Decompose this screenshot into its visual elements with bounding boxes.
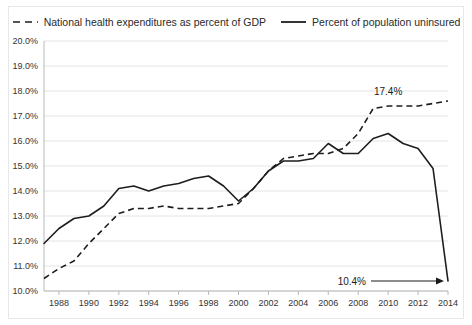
y-axis-tick-label: 16.0% <box>12 136 38 146</box>
x-axis-tick-label: 2014 <box>438 298 458 308</box>
series-line-uninsured <box>44 134 448 282</box>
y-axis-tick-label: 13.0% <box>12 211 38 221</box>
y-axis-tick-label: 11.0% <box>13 261 38 271</box>
x-axis-tick-label: 1992 <box>109 298 129 308</box>
x-axis-tick-label: 1998 <box>199 298 219 308</box>
y-axis-tick-label: 18.0% <box>12 86 38 96</box>
x-axis-tick-label: 1990 <box>79 298 99 308</box>
chart-svg: 10.0%11.0%12.0%13.0%14.0%15.0%16.0%17.0%… <box>0 0 472 325</box>
chart-container: National health expenditures as percent … <box>0 0 472 325</box>
x-axis-tick-label: 2008 <box>348 298 368 308</box>
y-axis-tick-label: 12.0% <box>12 236 38 246</box>
series-line-health-expenditures <box>44 101 448 279</box>
x-axis-tick-label: 2004 <box>288 298 308 308</box>
y-axis-tick-label: 19.0% <box>12 61 38 71</box>
y-axis-tick-label: 10.0% <box>12 286 38 296</box>
y-axis-tick-labels: 10.0%11.0%12.0%13.0%14.0%15.0%16.0%17.0%… <box>12 36 38 296</box>
x-axis-tick-label: 1994 <box>139 298 159 308</box>
x-axis-tick-label: 2006 <box>318 298 338 308</box>
gridlines-group <box>44 41 448 291</box>
x-axis-tick-label: 1996 <box>169 298 189 308</box>
y-axis-tick-label: 14.0% <box>12 186 38 196</box>
annotation-label-10-4: 10.4% <box>338 276 366 287</box>
x-axis-tick-label: 1988 <box>49 298 69 308</box>
x-axis-tick-label: 2010 <box>378 298 398 308</box>
annotation-label-17-4: 17.4% <box>374 86 402 97</box>
x-axis-tick-labels: 1988199019921994199619982000200220042006… <box>49 298 458 308</box>
x-axis-tick-label: 2002 <box>258 298 278 308</box>
plot-area-wrapper: 10.0%11.0%12.0%13.0%14.0%15.0%16.0%17.0%… <box>0 0 472 325</box>
axis-lines-group <box>44 41 448 295</box>
y-axis-tick-label: 20.0% <box>12 36 38 46</box>
x-axis-tick-label: 2012 <box>408 298 428 308</box>
annotation-arrow-head <box>436 277 444 284</box>
y-axis-tick-label: 15.0% <box>12 161 38 171</box>
y-axis-tick-label: 17.0% <box>12 111 38 121</box>
x-axis-tick-label: 2000 <box>229 298 249 308</box>
